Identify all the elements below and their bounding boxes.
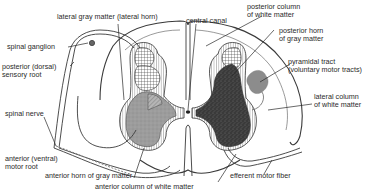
pyramidal-tract bbox=[247, 70, 268, 93]
label-anterior-column: anterior column of white matter bbox=[95, 183, 194, 191]
label-line: sensory root bbox=[2, 71, 56, 79]
label-central-canal: central canal bbox=[186, 17, 227, 25]
efferent-motor-fiber bbox=[224, 148, 302, 166]
label-spinal-nerve: spinal nerve bbox=[5, 110, 44, 118]
label-efferent-motor-fiber: efferent motor fiber bbox=[230, 172, 291, 180]
label-line: of white matter bbox=[314, 101, 361, 109]
label-line: (voluntary motor tracts) bbox=[288, 66, 362, 74]
label-lateral-column: lateral column of white matter bbox=[314, 93, 361, 109]
central-canal bbox=[186, 110, 190, 114]
label-pyramidal-tract: pyramidal tract (voluntary motor tracts) bbox=[288, 58, 362, 74]
label-line: of gray matter bbox=[279, 35, 323, 43]
label-spinal-ganglion: spinal ganglion bbox=[7, 43, 55, 51]
label-line: motor root bbox=[5, 163, 58, 171]
label-lateral-gray-matter: lateral gray matter (lateral horn) bbox=[57, 13, 158, 21]
label-line: of white matter bbox=[247, 11, 300, 19]
label-posterior-horn: posterior horn of gray matter bbox=[279, 27, 323, 43]
label-posterior-root: posterior (dorsal) sensory root bbox=[2, 63, 56, 79]
label-anterior-horn: anterior horn of gray matter bbox=[45, 172, 132, 180]
right-gray-matter bbox=[192, 42, 256, 150]
left-gray-matter bbox=[120, 42, 184, 150]
label-posterior-column: posterior column of white matter bbox=[247, 3, 300, 19]
label-anterior-root: anterior (ventral) motor root bbox=[5, 155, 58, 171]
